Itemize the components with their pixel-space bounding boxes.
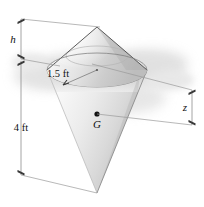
rim-center-dot [96, 69, 98, 71]
four-ft-label: 4 ft [14, 122, 28, 133]
cone-figure-diagram: 1.5 ft G h [0, 0, 204, 207]
radius-label: 1.5 ft [47, 68, 69, 79]
figure-container: 1.5 ft G h [0, 0, 204, 207]
centroid-z-dimension: z [182, 90, 196, 125]
centroid-label: G [93, 118, 101, 130]
z-label: z [182, 101, 188, 113]
h-label: h [10, 33, 16, 45]
ext-line-bottom-apex [21, 175, 97, 193]
ext-line-apex [21, 19, 100, 27]
height-h-dimension: h [10, 19, 24, 59]
